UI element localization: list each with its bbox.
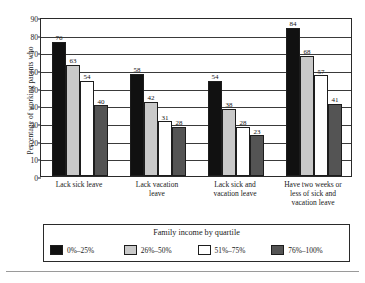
bar: 76 [52, 42, 66, 176]
legend-label: 0%–25% [67, 246, 94, 255]
bar-group: 58423128 [119, 19, 197, 176]
bar: 38 [222, 109, 236, 176]
x-axis-label-line: Lack sick leave [40, 180, 118, 189]
bar-value-label: 58 [134, 66, 141, 74]
bar-value-label: 23 [254, 128, 261, 136]
legend-item[interactable]: 26%–50% [124, 245, 198, 255]
bar-value-label: 38 [226, 101, 233, 109]
bar-value-label: 28 [176, 119, 183, 127]
legend-item[interactable]: 51%–75% [198, 245, 272, 255]
x-axis-label-line: vacation leave [196, 189, 274, 198]
y-axis-tick-mark [38, 178, 42, 179]
x-axis-label-line: Lack sick and [196, 180, 274, 189]
bars-layer: 76635440584231285438282384685741 [41, 19, 351, 176]
legend-label: 76%–100% [288, 246, 323, 255]
x-axis-label-line: vacation leave [274, 198, 352, 207]
x-axis-label-line: less of sick and [274, 189, 352, 198]
bar: 31 [158, 121, 172, 176]
legend: Family income by quartile 0%–25%26%–50%5… [43, 224, 350, 262]
x-axis-label-line: Have two weeks or [274, 180, 352, 189]
legend-swatch [124, 245, 137, 255]
legend-title: Family income by quartile [44, 228, 349, 237]
bar-chart-figure: Percentage of working parents who 010203… [0, 0, 365, 283]
x-axis-label: Have two weeks orless of sick andvacatio… [274, 180, 352, 208]
x-axis-label-line: Lack vacation [118, 180, 196, 189]
bar-value-label: 28 [240, 119, 247, 127]
legend-item[interactable]: 76%–100% [271, 245, 345, 255]
bar-value-label: 63 [70, 57, 77, 65]
legend-items: 0%–25%26%–50%51%–75%76%–100% [50, 245, 345, 255]
bar-group: 54382823 [197, 19, 275, 176]
bar-group: 84685741 [275, 19, 353, 176]
legend-swatch [271, 245, 284, 255]
x-axis-category-labels: Lack sick leaveLack vacationleaveLack si… [40, 180, 352, 222]
bar-value-label: 40 [98, 98, 105, 106]
bar-value-label: 57 [318, 68, 325, 76]
bar: 28 [172, 127, 186, 176]
legend-label: 51%–75% [215, 246, 246, 255]
footer-divider [6, 271, 359, 272]
bar: 84 [286, 28, 300, 176]
bar: 42 [144, 102, 158, 176]
bar: 23 [250, 135, 264, 176]
bar: 63 [66, 65, 80, 176]
bar: 54 [80, 81, 94, 176]
bar-value-label: 54 [84, 73, 91, 81]
bar-value-label: 68 [304, 48, 311, 56]
x-axis-label: Lack sick leave [40, 180, 118, 189]
legend-item[interactable]: 0%–25% [50, 245, 124, 255]
bar: 58 [130, 74, 144, 176]
bar-value-label: 42 [148, 94, 155, 102]
legend-label: 26%–50% [141, 246, 172, 255]
legend-swatch [198, 245, 211, 255]
bar-value-label: 54 [212, 73, 219, 81]
bar: 41 [328, 104, 342, 176]
bar-value-label: 41 [332, 96, 339, 104]
x-axis-label: Lack vacationleave [118, 180, 196, 198]
x-axis-label-line: leave [118, 189, 196, 198]
bar-value-label: 76 [56, 34, 63, 42]
plot-area: 0102030405060708090 76635440584231285438… [40, 18, 352, 177]
x-axis-label: Lack sick andvacation leave [196, 180, 274, 198]
bar-value-label: 84 [290, 20, 297, 28]
legend-swatch [50, 245, 63, 255]
bar: 68 [300, 56, 314, 176]
bar-value-label: 31 [162, 114, 169, 122]
bar: 40 [94, 105, 108, 176]
bar: 28 [236, 127, 250, 176]
bar: 57 [314, 75, 328, 176]
bar: 54 [208, 81, 222, 176]
bar-group: 76635440 [41, 19, 119, 176]
